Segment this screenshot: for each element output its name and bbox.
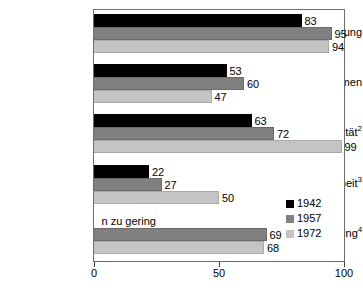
category-footnote-marker: 2 xyxy=(358,124,362,133)
bar-value-label: 22 xyxy=(149,166,164,177)
bar-row: 53 xyxy=(94,64,344,77)
bar-value-label: 47 xyxy=(212,91,227,102)
legend-item[interactable]: 1942 xyxy=(286,196,342,211)
legend-item[interactable]: 1957 xyxy=(286,211,342,226)
bar xyxy=(94,127,274,140)
bar xyxy=(94,90,212,103)
category-footnote-marker: 3 xyxy=(358,175,362,184)
bar-row: 72 xyxy=(94,127,344,140)
bar-value-label: 27 xyxy=(162,179,177,190)
bar-row: 63 xyxy=(94,114,344,127)
legend-item[interactable]: 1972 xyxy=(286,226,342,241)
bar xyxy=(94,27,332,40)
bar xyxy=(94,40,329,53)
bar-row: 83 xyxy=(94,14,344,27)
bar xyxy=(94,165,149,178)
bar xyxy=(94,114,252,127)
category-footnote-marker: 4 xyxy=(358,225,362,234)
bar xyxy=(94,241,264,254)
bar-value-label: 53 xyxy=(227,65,242,76)
bar-value-label: 95 xyxy=(332,28,347,39)
legend-swatch-icon xyxy=(286,230,294,238)
bar xyxy=(94,191,219,204)
bar-row: 27 xyxy=(94,178,344,191)
legend-label: 1972 xyxy=(297,228,321,239)
bar-row: 60 xyxy=(94,77,344,90)
bar-value-label: 60 xyxy=(244,78,259,89)
bar xyxy=(94,228,267,241)
bar-value-label: 50 xyxy=(219,192,234,203)
bar-value-label: 94 xyxy=(329,41,344,52)
chart-annotation: n zu gering xyxy=(102,216,156,227)
legend-label: 1957 xyxy=(297,213,321,224)
bar-row: 68 xyxy=(94,241,344,254)
bar xyxy=(94,14,302,27)
bar-row: 22 xyxy=(94,165,344,178)
legend-swatch-icon xyxy=(286,215,294,223)
bar-value-label: 83 xyxy=(302,15,317,26)
bar-row: 99 xyxy=(94,140,344,153)
bar-row: 95 xyxy=(94,27,344,40)
bar-group: 637299 xyxy=(94,114,344,153)
bar-row: 94 xyxy=(94,40,344,53)
bar xyxy=(94,140,342,153)
bar xyxy=(94,64,227,77)
bar-row: 47 xyxy=(94,90,344,103)
x-axis-tick-label: 0 xyxy=(91,268,97,279)
x-axis-tick-label: 100 xyxy=(335,268,353,279)
bar-group: 536047 xyxy=(94,64,344,103)
bar-value-label: 99 xyxy=(342,141,357,152)
bar xyxy=(94,178,162,191)
bar-group: 839594 xyxy=(94,14,344,53)
bar-value-label: 69 xyxy=(267,229,282,240)
x-axis-tick-labels: 050100 xyxy=(0,268,363,284)
legend-label: 1942 xyxy=(297,198,321,209)
legend-swatch-icon xyxy=(286,200,294,208)
chart-legend: 194219571972 xyxy=(286,196,342,241)
bar-chart: AusbildungEinkommenSexualität2Hausarbeit… xyxy=(0,0,363,292)
bar xyxy=(94,77,244,90)
bar-value-label: 68 xyxy=(264,242,279,253)
x-axis-tick-label: 50 xyxy=(213,268,225,279)
bar-value-label: 72 xyxy=(274,128,289,139)
bar-value-label: 63 xyxy=(252,115,267,126)
